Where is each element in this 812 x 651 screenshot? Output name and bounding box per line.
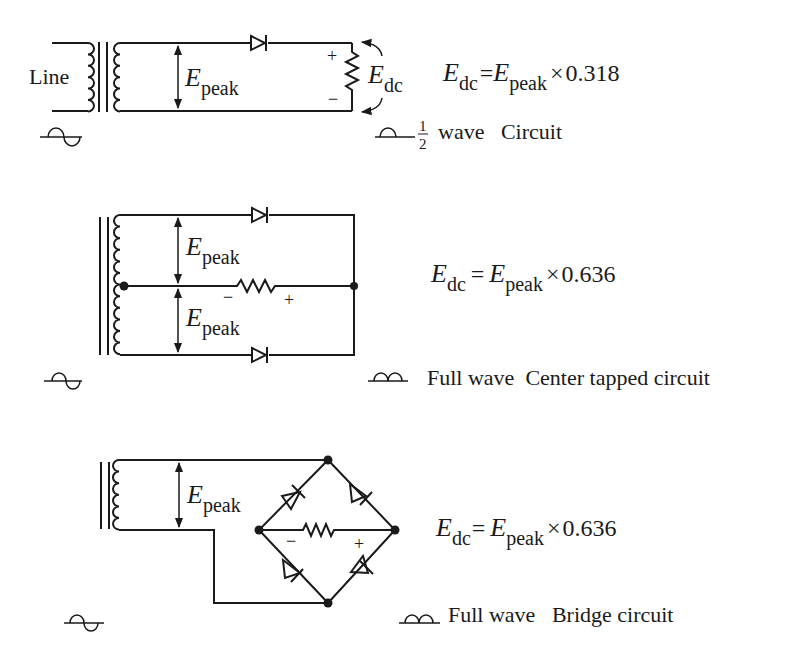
plus-sign: + bbox=[354, 534, 364, 554]
plus-sign: + bbox=[327, 46, 337, 66]
secondary-coil-icon bbox=[114, 43, 120, 111]
diode-upper-left-icon bbox=[282, 485, 305, 509]
svg-text:wave Circuit: wave Circuit bbox=[438, 119, 562, 144]
primary-coil-icon bbox=[88, 43, 94, 111]
transformer-core-icon bbox=[100, 217, 108, 355]
e-peak-label: Epeak bbox=[186, 480, 241, 517]
diode-lower-left-icon bbox=[283, 560, 303, 582]
secondary-coil-icon bbox=[114, 215, 120, 354]
e-peak-label-top: Epeak bbox=[185, 232, 240, 269]
sine-wave-icon bbox=[64, 615, 104, 631]
e-dc-label: Edc bbox=[367, 60, 403, 96]
formula-center-tapped: Edc=Epeak×0.636 bbox=[430, 259, 616, 296]
sine-wave-icon bbox=[44, 373, 82, 389]
minus-sign: − bbox=[328, 89, 338, 109]
output-node bbox=[350, 282, 358, 290]
load-resistor-icon bbox=[124, 280, 354, 292]
svg-text:2: 2 bbox=[419, 136, 427, 152]
full-wave-icon bbox=[368, 373, 408, 381]
full-wave-icon bbox=[399, 615, 440, 623]
diode-bottom-icon bbox=[252, 347, 267, 363]
half-wave-title: 1 2 wave Circuit bbox=[418, 118, 562, 152]
center-tap-node bbox=[120, 282, 129, 291]
load-resistor-icon bbox=[346, 43, 358, 111]
bridge-node-right bbox=[391, 526, 400, 535]
diode-top-icon bbox=[252, 207, 267, 223]
formula-half-wave: Edc=Epeak×0.318 bbox=[442, 58, 620, 95]
bottom-wire bbox=[119, 530, 328, 603]
minus-sign: − bbox=[223, 287, 233, 307]
line-label: Line bbox=[29, 64, 69, 89]
bridge-node-top bbox=[324, 456, 333, 465]
center-tapped-circuit bbox=[100, 207, 358, 363]
e-peak-label: Epeak bbox=[184, 63, 239, 100]
bridge-diamond bbox=[259, 460, 395, 603]
minus-sign: − bbox=[286, 531, 296, 551]
formula-bridge: Edc=Epeak×0.636 bbox=[435, 513, 617, 550]
bridge-node-bottom bbox=[324, 599, 333, 608]
e-peak-label-bottom: Epeak bbox=[185, 303, 240, 340]
diode-icon bbox=[251, 35, 266, 51]
rectifier-circuits-diagram: Line Epeak + − Edc Edc=Epeak×0.318 1 2 w… bbox=[0, 0, 812, 651]
bridge-node-left bbox=[255, 526, 264, 535]
bridge-title: Full wave Bridge circuit bbox=[448, 602, 673, 627]
half-wave-icon bbox=[375, 128, 415, 137]
secondary-coil-icon bbox=[113, 460, 119, 530]
svg-text:1: 1 bbox=[419, 118, 427, 134]
plus-sign: + bbox=[284, 290, 294, 310]
transformer-core-icon bbox=[99, 42, 107, 112]
load-resistor-icon bbox=[259, 524, 395, 536]
output-arrow-top bbox=[362, 42, 382, 56]
center-tapped-title: Full wave Center tapped circuit bbox=[427, 365, 710, 390]
bridge-circuit bbox=[101, 456, 400, 608]
transformer-core-icon bbox=[101, 462, 109, 529]
sine-wave-icon bbox=[40, 128, 82, 146]
output-arrow-bottom bbox=[362, 98, 382, 112]
